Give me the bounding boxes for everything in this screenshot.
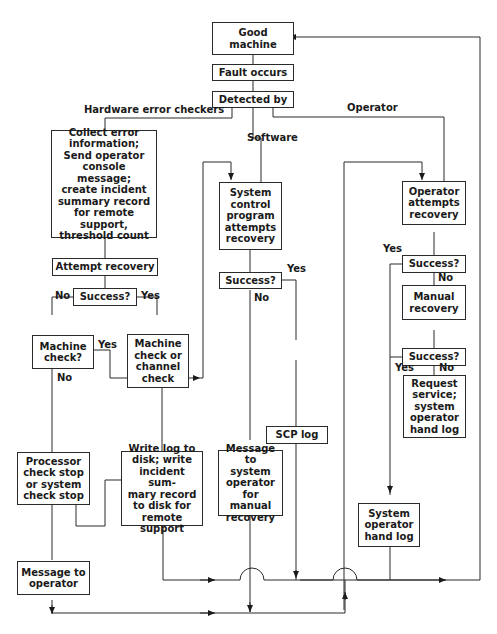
label-operator: Operator: [347, 102, 398, 113]
manual-recovery-box: Manual recovery: [402, 285, 466, 320]
success-decision-op1: Success?: [402, 255, 466, 273]
success-decision-hw: Success?: [73, 288, 137, 306]
fault-occurs-box: Fault occurs: [212, 64, 294, 81]
request-service-box: Request service; system operator hand lo…: [403, 375, 466, 438]
success-decision-sw: Success?: [219, 272, 282, 289]
good-machine-box: Good machine: [212, 22, 294, 55]
collect-error-box: Collect error information; Send operator…: [51, 130, 157, 238]
scp-attempts-recovery-box: System control program attempts recovery: [219, 182, 282, 250]
label-op1-yes: Yes: [383, 243, 402, 254]
processor-check-stop-box: Processor check stop or system check sto…: [17, 452, 90, 505]
label-sw-yes: Yes: [287, 263, 306, 274]
label-hardware-error-checkers: Hardware error checkers: [84, 104, 224, 115]
label-op2-yes: Yes: [395, 362, 414, 373]
system-operator-hand-log-box: System operator hand log: [358, 503, 420, 547]
detected-by-box: Detected by: [212, 91, 294, 108]
operator-attempts-recovery-box: Operator attempts recovery: [402, 181, 466, 225]
label-mc-yes: Yes: [98, 339, 117, 350]
scp-log-box: SCP log: [266, 426, 328, 444]
label-software: Software: [247, 132, 298, 143]
label-mc-no: No: [57, 372, 72, 383]
message-to-operator-box: Message to operator: [17, 561, 90, 595]
label-op1-no: No: [438, 272, 453, 283]
machine-or-channel-check-box: Machine check or channel check: [127, 334, 189, 388]
write-log-box: Write log to disk; write incident sum- m…: [121, 451, 203, 526]
label-hw-yes: Yes: [141, 290, 160, 301]
label-hw-no: No: [55, 290, 70, 301]
message-to-system-operator-box: Message to system operator for manual re…: [218, 450, 283, 516]
label-sw-no: No: [254, 292, 269, 303]
label-op2-no: No: [439, 362, 454, 373]
machine-check-decision: Machine check?: [32, 335, 94, 369]
attempt-recovery-box: Attempt recovery: [52, 258, 158, 276]
